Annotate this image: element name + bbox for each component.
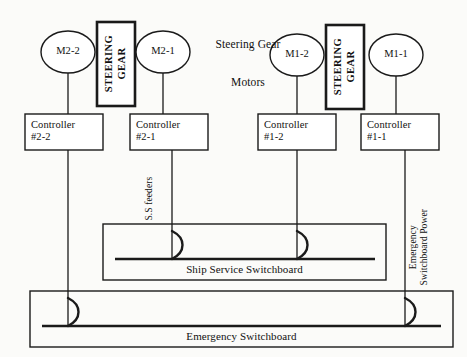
- controller-label-line2: #2-2: [31, 131, 75, 143]
- feeder-label-line1: Emergency: [408, 201, 419, 293]
- steering-gear-label-line1: STEERING: [332, 24, 345, 110]
- controller-label-line2: #1-1: [367, 131, 411, 143]
- feeder-label-ss-feeders: S.S feeders: [144, 165, 155, 233]
- controller-label-ctrl-1-1: Controller#1-1: [367, 119, 411, 144]
- switchboard-caption-emergency-switchboard: Emergency Switchboard: [30, 330, 453, 342]
- controller-label-line1: Controller: [264, 119, 308, 131]
- feeder-label-text: S.S feeders: [144, 165, 155, 233]
- controller-label-line1: Controller: [31, 119, 75, 131]
- motor-label-m1-1: M1-1: [369, 48, 423, 60]
- steering-gear-label-line1: STEERING: [103, 21, 116, 107]
- motor-label-m2-2: M2-2: [41, 45, 95, 57]
- steering-gear-motors-diagram: Steering Gear Motors STEERINGGEARSTEERIN…: [0, 0, 467, 357]
- controller-label-ctrl-2-2: Controller#2-2: [31, 119, 75, 144]
- steering-gear-label-sg-2: STEERINGGEAR: [103, 21, 128, 107]
- diagram-title: Steering Gear Motors: [196, 12, 300, 115]
- switchboard-caption-ship-service-switchboard: Ship Service Switchboard: [103, 263, 386, 275]
- motor-label-m1-2: M1-2: [270, 48, 324, 60]
- controller-label-line1: Controller: [136, 119, 180, 131]
- steering-gear-label-sg-1: STEERINGGEAR: [332, 24, 357, 110]
- feeder-label-emergency-power: EmergencySwitchboard Power: [408, 201, 430, 293]
- breaker-symbol-ship-service-switchboard-0: [172, 231, 183, 259]
- breaker-symbol-ship-service-switchboard-1: [297, 231, 308, 259]
- steering-gear-label-line2: GEAR: [345, 24, 358, 110]
- steering-gear-label-line2: GEAR: [116, 21, 129, 107]
- controller-label-line1: Controller: [367, 119, 411, 131]
- diagram-title-line2: Motors: [196, 76, 300, 89]
- feeder-label-line2: Switchboard Power: [419, 201, 430, 293]
- controller-label-ctrl-2-1: Controller#2-1: [136, 119, 180, 144]
- breaker-symbols-group: [68, 231, 416, 326]
- breaker-symbol-emergency-switchboard-1: [405, 298, 416, 326]
- breaker-symbol-emergency-switchboard-0: [68, 298, 79, 326]
- controller-label-ctrl-1-2: Controller#1-2: [264, 119, 308, 144]
- controller-label-line2: #2-1: [136, 131, 180, 143]
- controller-label-line2: #1-2: [264, 131, 308, 143]
- motor-label-m2-1: M2-1: [136, 45, 190, 57]
